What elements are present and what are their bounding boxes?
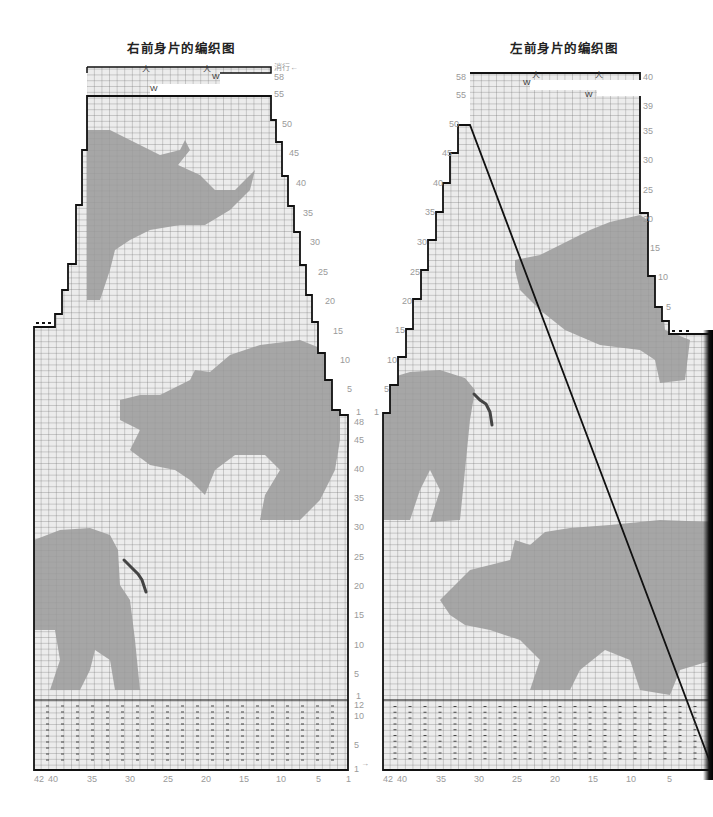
rib-arrow-icon: → <box>361 760 369 768</box>
row-label: 45 <box>442 149 452 158</box>
row-label: 25 <box>410 268 420 277</box>
row-label: 5 <box>384 385 389 394</box>
body-row-label: 45 <box>354 436 364 445</box>
stitch-symbol: W <box>523 79 531 87</box>
row-label: 1 <box>356 408 361 417</box>
body-row-label: 20 <box>354 582 364 591</box>
body-row-label: 5 <box>354 670 359 679</box>
body-row-label: 25 <box>354 553 364 562</box>
decrease-symbol: 人 <box>203 66 211 74</box>
side-row-label: 5 <box>666 303 671 312</box>
side-row-label: 15 <box>650 244 660 253</box>
row-label: 15 <box>395 326 405 335</box>
row-label: 55 <box>456 91 466 100</box>
column-label: 10 <box>626 775 636 784</box>
body-row-label: 48 <box>354 418 364 427</box>
column-label: 10 <box>276 775 286 784</box>
row-label: 40 <box>296 179 306 188</box>
left-front-knitting-chart: 58 55 50 45 40 35 30 25 20 15 10 5 1 40 … <box>370 0 713 817</box>
left-front-grid-svg <box>370 0 713 817</box>
body-row-label: 10 <box>354 641 364 650</box>
column-label: 40 <box>397 775 407 784</box>
side-row-label: 35 <box>643 127 653 136</box>
column-label: 42 <box>34 775 44 784</box>
rib-row-label: 12 <box>354 701 364 710</box>
row-label: 58 <box>274 73 284 82</box>
column-label: 20 <box>550 775 560 784</box>
decrease-symbol: 人 <box>142 66 150 74</box>
row-label: 50 <box>282 120 292 129</box>
stitch-symbol: W <box>212 73 220 81</box>
row-label: 20 <box>325 297 335 306</box>
row-label: 40 <box>433 179 443 188</box>
stitch-symbol: W <box>150 85 158 93</box>
column-label: 35 <box>436 775 446 784</box>
column-label: 30 <box>474 775 484 784</box>
column-label: 15 <box>588 775 598 784</box>
column-label: 25 <box>512 775 522 784</box>
body-row-label: 35 <box>354 494 364 503</box>
column-label: 5 <box>316 775 321 784</box>
row-label: 50 <box>449 120 459 129</box>
body-row-label: 15 <box>354 611 364 620</box>
right-front-knitting-chart: 消行← 58 55 50 45 40 35 30 25 20 15 10 5 1… <box>0 0 370 817</box>
page-edge-shadow <box>703 330 713 780</box>
right-front-grid-svg <box>0 0 370 817</box>
row-label: 30 <box>310 238 320 247</box>
column-label: 5 <box>667 775 672 784</box>
column-label: 42 <box>383 775 393 784</box>
side-row-label: 25 <box>643 186 653 195</box>
stitch-symbol: W <box>585 91 593 99</box>
rib-row-label: 1 <box>354 765 359 774</box>
row-label: 45 <box>289 149 299 158</box>
row-label: 1 <box>374 408 379 417</box>
decrease-symbol: 人 <box>532 72 540 80</box>
row-label: 20 <box>402 297 412 306</box>
body-row-label: 40 <box>354 465 364 474</box>
column-label: 15 <box>239 775 249 784</box>
row-label: 10 <box>340 356 350 365</box>
column-label: 25 <box>163 775 173 784</box>
column-label: 20 <box>201 775 211 784</box>
rib-row-label: 5 <box>354 741 359 750</box>
column-label: 40 <box>48 775 58 784</box>
row-label: 5 <box>347 385 352 394</box>
column-label: 35 <box>87 775 97 784</box>
row-label: 25 <box>318 268 328 277</box>
row-label: 58 <box>456 73 466 82</box>
side-row-label: 39 <box>643 102 653 111</box>
row-label: 10 <box>387 356 397 365</box>
side-row-label: 30 <box>643 156 653 165</box>
side-row-label: 20 <box>643 215 653 224</box>
row-label: 55 <box>274 90 284 99</box>
decrease-symbol: 人 <box>595 72 603 80</box>
rib-row-label: 10 <box>354 712 364 721</box>
column-label: 30 <box>125 775 135 784</box>
body-row-label: 30 <box>354 523 364 532</box>
row-label: 15 <box>333 327 343 336</box>
side-row-label: 40 <box>643 73 653 82</box>
side-row-label: 10 <box>658 273 668 282</box>
row-marker-label: 消行← <box>274 64 298 72</box>
row-label: 35 <box>425 208 435 217</box>
column-label: 1 <box>346 775 351 784</box>
row-label: 30 <box>417 238 427 247</box>
row-label: 35 <box>303 209 313 218</box>
